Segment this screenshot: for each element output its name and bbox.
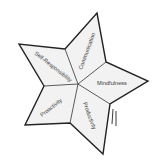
motion-marks <box>112 109 116 126</box>
star-diagram: Self-Responsibility Communication Mindfu… <box>0 0 162 166</box>
segment-label-mindfulness: Mindfulness <box>97 80 127 86</box>
star-outline <box>19 13 148 154</box>
